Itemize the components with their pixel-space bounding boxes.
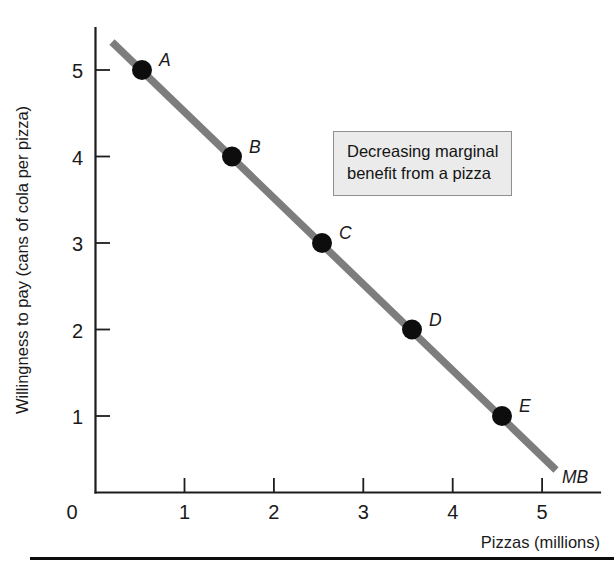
data-point-label-c: C: [339, 223, 352, 243]
y-tick-label-2: 2: [72, 320, 83, 342]
data-point-a: [132, 60, 152, 80]
data-point-d: [402, 320, 422, 340]
note-line-2: benefit from a pizza: [347, 163, 498, 185]
curve-label-mb: MB: [562, 467, 589, 487]
x-tick-label-5: 5: [537, 501, 548, 523]
note-line-1: Decreasing marginal: [347, 141, 498, 163]
x-tick-label-0: 0: [66, 501, 77, 523]
x-tick-label-4: 4: [447, 501, 458, 523]
data-point-label-a: A: [158, 50, 171, 70]
data-point-c: [312, 233, 332, 253]
data-point-label-d: D: [429, 310, 442, 330]
y-tick-label-1: 1: [72, 406, 83, 428]
y-tick-label-5: 5: [72, 60, 83, 82]
x-tick-label-1: 1: [179, 501, 190, 523]
x-axis-tick-labels: 0 1 2 3 4 5: [66, 501, 547, 523]
data-point-label-e: E: [519, 396, 531, 416]
y-axis-ticks: [96, 70, 111, 416]
y-tick-label-4: 4: [72, 147, 83, 169]
data-point-label-b: B: [249, 137, 261, 157]
bottom-divider-rule: [30, 557, 614, 560]
x-tick-label-3: 3: [358, 501, 369, 523]
x-axis-title: Pizzas (millions): [481, 533, 600, 551]
data-point-e: [492, 406, 512, 426]
y-tick-label-3: 3: [72, 233, 83, 255]
y-axis-title: Willingness to pay (cans of cola per piz…: [13, 106, 31, 414]
y-axis-tick-labels: 5 4 3 2 1: [72, 60, 83, 428]
x-axis-ticks: [185, 478, 543, 493]
decreasing-marginal-benefit-note: Decreasing marginal benefit from a pizza: [333, 131, 512, 196]
marginal-benefit-chart: 5 4 3 2 1 0 1 2 3 4 5: [0, 0, 614, 573]
marginal-benefit-curve: [112, 42, 556, 470]
marginal-benefit-figure: 5 4 3 2 1 0 1 2 3 4 5: [0, 0, 614, 573]
data-point-labels: A B C D E: [158, 50, 531, 416]
x-tick-label-2: 2: [268, 501, 279, 523]
data-point-b: [222, 147, 242, 167]
